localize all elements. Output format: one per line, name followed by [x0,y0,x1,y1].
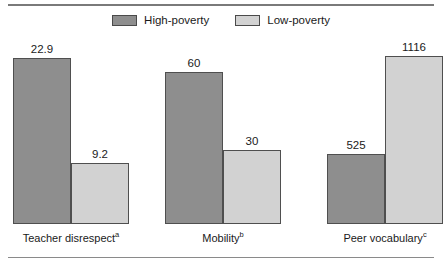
bar-group: 6030Mobilityb [165,0,281,272]
bar-rect[interactable] [327,154,385,224]
bar-value-label: 1116 [402,41,426,53]
bar-rect[interactable] [71,163,129,224]
bar-value-label: 60 [188,57,201,69]
bar-rect[interactable] [165,72,223,224]
bar-item[interactable]: 9.2 [71,163,129,224]
category-footnote-marker: a [115,230,119,239]
bar-group: 5251116Peer vocabularyc [327,0,443,272]
bar-item[interactable]: 22.9 [13,58,71,224]
bar-rect[interactable] [13,58,71,224]
category-footnote-marker: c [423,230,427,239]
category-axis-label: Teacher disrespecta [13,232,129,244]
bar-item[interactable]: 30 [223,150,281,224]
category-axis-label: Peer vocabularyc [327,232,443,244]
bar-rect[interactable] [385,56,443,224]
bar-group-bars: 5251116 [327,56,443,224]
bar-group-bars: 22.99.2 [13,58,129,224]
category-axis-label: Mobilityb [165,232,281,244]
bar-group: 22.99.2Teacher disrespecta [13,0,129,272]
bar-value-label: 30 [246,135,259,147]
bar-value-label: 525 [346,139,365,151]
bar-item[interactable]: 60 [165,72,223,224]
bottom-divider-rule [8,257,434,258]
bar-value-label: 9.2 [92,148,108,160]
bar-value-label: 22.9 [31,43,53,55]
category-footnote-marker: b [240,230,244,239]
bar-item[interactable]: 1116 [385,56,443,224]
bar-rect[interactable] [223,150,281,224]
bar-item[interactable]: 525 [327,154,385,224]
bar-group-bars: 6030 [165,72,281,224]
